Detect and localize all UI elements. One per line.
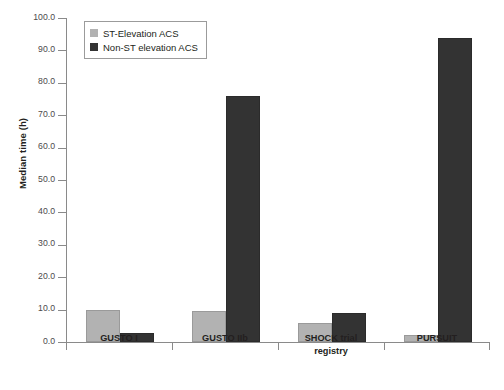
y-tick-mark (58, 148, 66, 149)
y-tick-mark (58, 50, 66, 51)
y-tick-label: 30.0 (38, 238, 55, 248)
y-tick-label: 40.0 (38, 206, 55, 216)
y-tick-label: 60.0 (38, 141, 55, 151)
y-tick-label: 90.0 (38, 44, 55, 54)
legend-item-non-st-elevation: Non-ST elevation ACS (90, 40, 198, 54)
x-axis-category-line: registry (278, 345, 384, 358)
x-axis-category-line: SHOCK trial (278, 332, 384, 345)
y-tick-mark (58, 342, 66, 343)
legend-label-non-st-elevation: Non-ST elevation ACS (103, 42, 198, 53)
legend-swatch-icon-st-elevation (90, 29, 98, 37)
y-tick-mark (58, 245, 66, 246)
y-tick-label: 50.0 (38, 174, 55, 184)
x-axis-category-line: GUSTO IIb (172, 332, 278, 345)
y-tick-label: 80.0 (38, 76, 55, 86)
y-tick-mark (58, 212, 66, 213)
y-tick-mark (58, 310, 66, 311)
legend-swatch-icon-non-st-elevation (90, 43, 98, 51)
bar (438, 38, 472, 342)
legend-item-st-elevation: ST-Elevation ACS (90, 26, 198, 40)
bar-group-container (67, 18, 490, 342)
bar-chart-figure: Median time (h) 0.010.020.030.040.050.06… (0, 0, 504, 390)
x-axis-category-line: PURSUIT (384, 332, 490, 345)
y-tick-label: 100.0 (33, 12, 55, 22)
y-tick-label: 0.0 (43, 336, 55, 346)
x-axis-category-label: GUSTO I (66, 332, 172, 345)
y-tick-mark (58, 180, 66, 181)
y-tick-mark (58, 18, 66, 19)
x-axis-category-label: GUSTO IIb (172, 332, 278, 345)
x-axis-category-label: SHOCK trialregistry (278, 332, 384, 358)
legend-label-st-elevation: ST-Elevation ACS (103, 28, 179, 39)
caption-strip (0, 383, 504, 390)
y-tick-mark (58, 83, 66, 84)
y-tick-label: 10.0 (38, 303, 55, 313)
y-tick-label: 70.0 (38, 109, 55, 119)
bar (226, 96, 260, 342)
y-tick-mark (58, 277, 66, 278)
y-tick-mark (58, 115, 66, 116)
y-axis-title: Median time (h) (17, 84, 28, 224)
y-tick-label: 20.0 (38, 271, 55, 281)
chart-legend: ST-Elevation ACS Non-ST elevation ACS (84, 21, 207, 59)
x-axis-category-line: GUSTO I (66, 332, 172, 345)
plot-area: 0.010.020.030.040.050.060.070.080.090.01… (66, 18, 490, 343)
x-axis-category-label: PURSUIT (384, 332, 490, 345)
